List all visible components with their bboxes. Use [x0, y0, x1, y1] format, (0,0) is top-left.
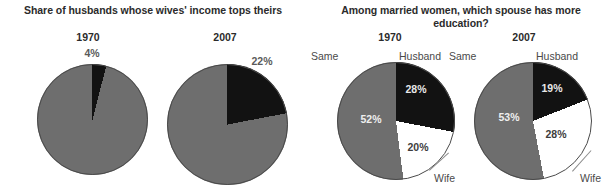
- education-1970-husband-category-label: Husband: [399, 50, 441, 62]
- income-1970-black-label: 4%: [72, 47, 112, 59]
- education-2007-year-label: 2007: [494, 31, 554, 43]
- education-2007-wife-category-label: Wife: [580, 172, 601, 184]
- pie-income-1970: [37, 64, 148, 175]
- education-2007-husband-category-label: Husband: [536, 50, 578, 62]
- panel-education-title: Among married women, which spouse has mo…: [306, 4, 616, 29]
- panel-education: Among married women, which spouse has mo…: [306, 0, 616, 187]
- education-2007-same-pct: 53%: [489, 111, 529, 123]
- infographic-root: { "panels": [ { "id": "income", "title":…: [0, 0, 616, 187]
- education-1970-husband-pct: 28%: [396, 83, 436, 95]
- panel-income-title: Share of husbands whose wives' income to…: [0, 4, 306, 17]
- education-2007-wife-pct: 28%: [536, 128, 576, 140]
- pie-income-2007: [167, 64, 288, 185]
- education-2007-husband-pct: 19%: [532, 82, 572, 94]
- education-1970-wife-category-label: Wife: [434, 172, 455, 184]
- education-2007-same-category-label: Same: [449, 50, 476, 62]
- education-1970-same-pct: 52%: [351, 113, 391, 125]
- income-2007-year-label: 2007: [195, 31, 255, 43]
- income-1970-year-label: 1970: [58, 31, 118, 43]
- income-2007-black-label: 22%: [242, 55, 282, 67]
- education-1970-year-label: 1970: [360, 31, 420, 43]
- panel-income: Share of husbands whose wives' income to…: [0, 0, 306, 187]
- education-1970-same-category-label: Same: [311, 50, 338, 62]
- education-1970-wife-pct: 20%: [398, 141, 438, 153]
